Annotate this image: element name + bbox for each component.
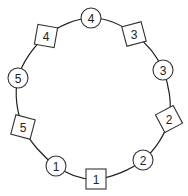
node-square-4: 4 bbox=[34, 24, 57, 47]
node-label: 1 bbox=[93, 173, 100, 187]
node-label: 4 bbox=[88, 12, 95, 26]
node-label: 4 bbox=[43, 30, 50, 44]
node-label: 2 bbox=[140, 154, 147, 168]
node-square-5: 5 bbox=[11, 115, 35, 139]
node-label: 5 bbox=[15, 72, 22, 86]
node-circle-2: 2 bbox=[133, 150, 153, 170]
node-group: 4332211554 bbox=[8, 8, 183, 189]
node-circle-5: 5 bbox=[8, 68, 28, 88]
node-label: 2 bbox=[166, 113, 173, 127]
node-circle-1: 1 bbox=[46, 156, 66, 176]
node-label: 1 bbox=[53, 160, 60, 174]
node-square-3: 3 bbox=[122, 22, 146, 46]
node-square-2: 2 bbox=[155, 105, 182, 132]
node-circle-4: 4 bbox=[81, 8, 101, 28]
node-label: 3 bbox=[131, 28, 138, 42]
node-circle-3: 3 bbox=[153, 60, 173, 80]
ring-diagram: 4332211554 bbox=[0, 0, 188, 196]
node-square-1: 1 bbox=[86, 169, 106, 189]
node-label: 3 bbox=[160, 64, 167, 78]
node-label: 5 bbox=[20, 121, 27, 135]
